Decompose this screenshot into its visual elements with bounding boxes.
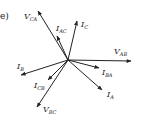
phasor-arrow-v-ca xyxy=(38,11,68,60)
phasor-label-v-bc: VBC xyxy=(43,105,57,115)
phasor-label-i-b: IB xyxy=(16,62,24,72)
phasor-arrow-v-bc xyxy=(37,60,68,107)
phasor-label-i-ac: IAC xyxy=(55,24,67,34)
phasor-label-i-ba: IBA xyxy=(101,68,113,78)
panel-label: e) xyxy=(0,11,9,21)
phasor-arrow-i-c xyxy=(68,21,77,60)
phasor-arrow-i-ac xyxy=(57,36,68,60)
phasor-label-i-cb: ICB xyxy=(33,81,45,91)
phasor-diagram: e) VCAIACICVABIBAIAVBCICBIB xyxy=(0,0,141,119)
phasor-arrow-v-ab xyxy=(68,60,131,61)
phasor-label-i-c: IC xyxy=(80,20,88,30)
phasor-group xyxy=(21,11,131,107)
phasor-label-v-ca: VCA xyxy=(24,12,38,22)
phasor-label-v-ab: VAB xyxy=(114,47,127,57)
phasor-label-i-a: IA xyxy=(106,90,114,100)
